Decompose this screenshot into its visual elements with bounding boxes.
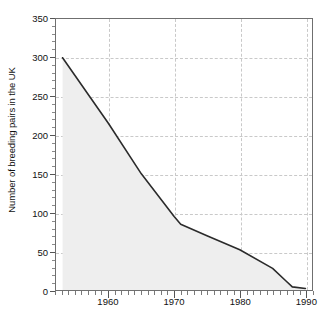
y-tick-minor (52, 229, 55, 230)
y-tick-minor (52, 112, 55, 113)
x-tick-minor (148, 291, 149, 295)
x-tick-minor (62, 291, 63, 295)
x-tick-minor (75, 291, 76, 295)
x-tick-minor (313, 291, 314, 295)
x-tick-minor (214, 291, 215, 295)
x-tick-label: 1960 (85, 296, 131, 307)
y-tick-minor (52, 34, 55, 35)
y-tick-label: 100 (8, 208, 48, 219)
x-tick-minor (154, 291, 155, 295)
y-tick-minor (52, 158, 55, 159)
x-tick-minor (81, 291, 82, 295)
y-tick-minor (52, 166, 55, 167)
series-fill (63, 58, 306, 290)
plot-area (55, 18, 313, 291)
y-tick-label: 200 (8, 130, 48, 141)
y-tick-minor (52, 49, 55, 50)
x-tick-minor (227, 291, 228, 295)
x-tick-minor (194, 291, 195, 295)
x-tick-minor (121, 291, 122, 295)
x-tick-minor (101, 291, 102, 295)
x-tick-minor (128, 291, 129, 295)
y-tick-minor (52, 244, 55, 245)
x-tick-minor (68, 291, 69, 295)
x-tick-minor (161, 291, 162, 295)
y-tick-minor (52, 205, 55, 206)
x-tick-minor (247, 291, 248, 295)
series-area-line (56, 19, 312, 290)
x-tick-minor (267, 291, 268, 295)
x-tick-minor (220, 291, 221, 295)
y-tick-minor (52, 88, 55, 89)
y-tick-mark (50, 18, 55, 19)
y-tick-minor (52, 65, 55, 66)
y-tick-minor (52, 268, 55, 269)
chart-figure: Number of breeding pairs in the UK 05010… (0, 0, 324, 324)
x-tick-minor (95, 291, 96, 295)
y-tick-mark (50, 174, 55, 175)
y-tick-label: 150 (8, 169, 48, 180)
y-tick-minor (52, 41, 55, 42)
x-tick-label: 1980 (217, 296, 263, 307)
x-tick-minor (187, 291, 188, 295)
x-tick-minor (293, 291, 294, 295)
y-tick-label: 300 (8, 52, 48, 63)
y-tick-label: 350 (8, 13, 48, 24)
y-tick-minor (52, 182, 55, 183)
y-tick-label: 50 (8, 247, 48, 258)
y-tick-label: 0 (8, 286, 48, 297)
y-tick-minor (52, 283, 55, 284)
y-tick-minor (52, 260, 55, 261)
y-tick-minor (52, 143, 55, 144)
y-tick-minor (52, 127, 55, 128)
y-tick-mark (50, 213, 55, 214)
y-tick-minor (52, 73, 55, 74)
x-tick-minor (287, 291, 288, 295)
x-tick-minor (253, 291, 254, 295)
y-tick-minor (52, 151, 55, 152)
y-tick-minor (52, 26, 55, 27)
x-tick-minor (141, 291, 142, 295)
y-tick-mark (50, 57, 55, 58)
x-tick-minor (181, 291, 182, 295)
x-tick-minor (234, 291, 235, 295)
x-tick-minor (280, 291, 281, 295)
x-tick-minor (273, 291, 274, 295)
y-tick-minor (52, 80, 55, 81)
y-tick-mark (50, 252, 55, 253)
x-tick-minor (115, 291, 116, 295)
x-tick-minor (134, 291, 135, 295)
y-tick-minor (52, 119, 55, 120)
x-tick-label: 1970 (151, 296, 197, 307)
y-tick-minor (52, 221, 55, 222)
x-tick-minor (167, 291, 168, 295)
y-tick-minor (52, 236, 55, 237)
x-tick-minor (201, 291, 202, 295)
x-tick-minor (207, 291, 208, 295)
y-tick-label: 250 (8, 91, 48, 102)
x-tick-minor (55, 291, 56, 295)
y-tick-mark (50, 135, 55, 136)
y-tick-mark (50, 96, 55, 97)
x-tick-minor (88, 291, 89, 295)
y-tick-minor (52, 197, 55, 198)
y-tick-minor (52, 190, 55, 191)
x-tick-minor (300, 291, 301, 295)
y-tick-minor (52, 104, 55, 105)
x-tick-minor (260, 291, 261, 295)
x-tick-label: 1990 (283, 296, 324, 307)
y-tick-minor (52, 275, 55, 276)
